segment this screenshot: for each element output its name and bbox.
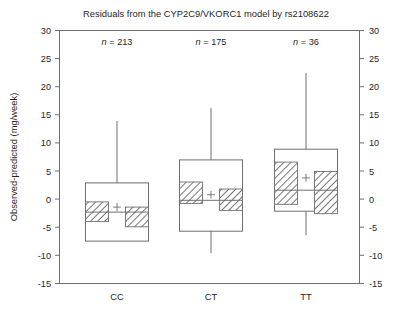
boxplot-figure: Residuals from the CYP2C9/VKORC1 model b… (0, 0, 412, 318)
n-annotation-tt: n = 36 (293, 37, 319, 47)
y-tick-label-right-5: 5 (369, 167, 374, 177)
notch-block-right-tt (315, 172, 338, 214)
y-tick-label-left-5: 5 (46, 167, 51, 177)
y-tick-label-right-10: 10 (369, 138, 379, 148)
y-tick-label-right-30: 30 (369, 26, 379, 36)
y-tick-label-left-20: 20 (41, 82, 51, 92)
y-tick-label-right-minus5: -5 (369, 223, 377, 233)
n-annotation-ct: n = 175 (196, 37, 227, 47)
n-value-tt: 36 (309, 37, 319, 47)
y-tick-label-right-20: 20 (369, 82, 379, 92)
y-tick-label-left-minus5: -5 (43, 223, 51, 233)
y-tick-label-left-minus10: -10 (38, 251, 51, 261)
y-tick-label-left-15: 15 (41, 110, 51, 120)
chart-title: Residuals from the CYP2C9/VKORC1 model b… (83, 8, 329, 19)
notch-block-right-cc (126, 207, 149, 227)
n-eq-cc: = (107, 37, 117, 47)
y-tick-label-right-25: 25 (369, 54, 379, 64)
y-tick-label-left-10: 10 (41, 138, 51, 148)
boxplot-canvas: Residuals from the CYP2C9/VKORC1 model b… (0, 0, 412, 318)
notch-block-right-ct (220, 189, 243, 210)
notch-block-left-tt (275, 162, 298, 204)
y-tick-label-left-minus15: -15 (38, 279, 51, 289)
y-tick-label-right-15: 15 (369, 110, 379, 120)
y-tick-label-right-minus10: -10 (369, 251, 382, 261)
x-category-label-ct: CT (205, 291, 218, 302)
n-value-ct: 175 (211, 37, 226, 47)
y-tick-label-right-0: 0 (369, 195, 374, 205)
x-category-label-cc: CC (110, 291, 124, 302)
n-value-cc: 213 (117, 37, 132, 47)
n-annotation-cc: n = 213 (102, 37, 133, 47)
chart-background (0, 0, 412, 318)
y-tick-label-left-0: 0 (46, 195, 51, 205)
y-tick-label-left-30: 30 (41, 26, 51, 36)
y-axis-title: Observed-predicted (mg/week) (8, 93, 19, 222)
y-tick-label-right-minus15: -15 (369, 279, 382, 289)
n-eq-ct: = (201, 37, 211, 47)
n-eq-tt: = (298, 37, 308, 47)
x-category-label-tt: TT (300, 291, 312, 302)
y-tick-label-left-25: 25 (41, 54, 51, 64)
